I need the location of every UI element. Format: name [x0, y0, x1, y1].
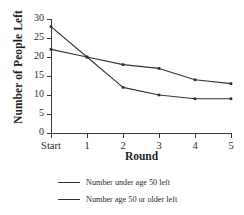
x-tick — [87, 134, 88, 138]
y-tick-label: 0 — [39, 126, 44, 138]
y-tick-label: 30 — [34, 12, 44, 24]
data-point-marker — [194, 79, 197, 82]
series-line-1 — [51, 49, 231, 83]
legend-label: Number under age 50 left — [86, 178, 170, 188]
data-point-marker — [158, 67, 161, 70]
data-point-marker — [50, 25, 53, 28]
legend-line-swatch — [58, 199, 80, 200]
data-point-marker — [86, 56, 89, 59]
x-axis-title: Round — [51, 150, 232, 162]
data-point-marker — [230, 82, 233, 85]
x-tick — [195, 134, 196, 138]
data-point-marker — [230, 98, 233, 101]
data-point-marker — [50, 48, 53, 51]
line-chart-figure: Number of People Left 051015202530 Start… — [0, 0, 244, 215]
plot-area: 051015202530 Start12345 — [51, 19, 232, 134]
series-line-2 — [51, 27, 231, 99]
x-tick — [159, 134, 160, 138]
data-point-marker — [194, 98, 197, 101]
y-tick-label: 15 — [34, 69, 44, 81]
data-point-marker — [122, 86, 125, 89]
legend-label: Number age 50 or older left — [86, 195, 177, 205]
x-tick — [51, 134, 52, 138]
data-point-marker — [158, 94, 161, 97]
x-tick — [123, 134, 124, 138]
y-axis-title: Number of People Left — [12, 2, 24, 132]
x-tick — [231, 134, 232, 138]
series-plot — [51, 19, 232, 134]
legend-item-1: Number under age 50 left — [58, 174, 244, 191]
y-tick-label: 5 — [39, 107, 44, 119]
data-point-marker — [122, 63, 125, 66]
chart-legend: Number under age 50 leftNumber age 50 or… — [58, 174, 244, 208]
y-tick-label: 20 — [34, 50, 44, 62]
y-tick-label: 10 — [34, 88, 44, 100]
y-tick-label: 25 — [34, 31, 44, 43]
legend-line-swatch — [58, 182, 80, 183]
legend-item-2: Number age 50 or older left — [58, 191, 244, 208]
